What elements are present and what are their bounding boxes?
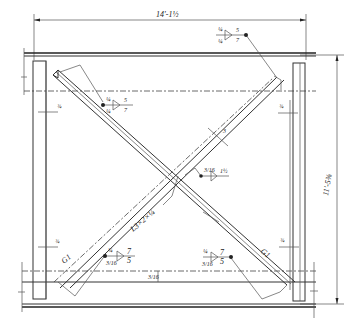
svg-text:¼: ¼: [106, 96, 111, 102]
svg-text:1½: 1½: [220, 168, 228, 174]
svg-text:¾: ¾: [55, 238, 60, 244]
arrowhead-bottom-icon: [336, 298, 339, 304]
brace-bl-tr: [54, 76, 284, 288]
svg-text:¼: ¼: [218, 26, 223, 32]
gusset-label-right: G1: [259, 247, 272, 260]
brace-tl-br: [53, 65, 295, 285]
edge-offset-upper-left: ¾: [38, 103, 62, 112]
svg-text:7: 7: [220, 248, 225, 257]
svg-text:¾: ¾: [279, 103, 284, 109]
svg-text:7: 7: [124, 107, 128, 113]
edge-offset-upper-right: ¾: [278, 103, 298, 113]
arrowhead-right-icon: [300, 19, 306, 22]
gusset-label-left: G1: [60, 252, 73, 265]
svg-text:3/16: 3/16: [147, 274, 159, 280]
right-column: [290, 63, 305, 301]
weld-callout-upper-left: ¼ ¼ 5 7: [101, 96, 133, 114]
bottom-beam: [18, 262, 318, 318]
svg-text:¼: ¼: [218, 38, 223, 44]
arrowhead-left-icon: [34, 19, 40, 22]
bracing-detail-drawing: 14'-1½ 11'-5⅜: [0, 0, 359, 326]
svg-text:3/16: 3/16: [201, 261, 213, 267]
svg-text:7: 7: [236, 37, 240, 43]
svg-text:3/16: 3/16: [203, 167, 215, 173]
arrowhead-top-icon: [336, 55, 339, 61]
width-dim-text: 14'-1½: [156, 10, 178, 19]
weld-callout-top-right: ¼ ¼ 5 7: [216, 26, 277, 78]
height-dim-text: 11'-5⅜: [321, 173, 334, 196]
weld-callout-center: 3/16 1½: [185, 167, 229, 181]
gusset-bottom-right: [231, 258, 287, 299]
gusset-top-right: [274, 76, 281, 90]
weld-callout-lower-right: ¼ 3/16 7 5: [201, 248, 233, 267]
brace-size-callout: L3×2×¼: [128, 176, 178, 234]
svg-text:¾: ¾: [280, 237, 285, 243]
beam-gap-dim: 3/16: [147, 271, 159, 282]
svg-text:¼: ¼: [108, 247, 113, 253]
brace-size-label: L3×2×¼: [128, 208, 157, 234]
svg-text:7: 7: [127, 247, 132, 256]
edge-offset-lower-left: ¾: [38, 238, 60, 247]
left-column: [33, 61, 46, 299]
svg-text:¾: ¾: [57, 103, 62, 109]
svg-text:¼: ¼: [203, 248, 208, 254]
svg-text:5: 5: [127, 256, 131, 265]
edge-offset-lower-right: ¾: [279, 237, 299, 247]
top-beam: [21, 48, 316, 95]
svg-text:¼: ¼: [106, 108, 111, 114]
tick-label-3: 3: [222, 128, 226, 134]
svg-text:5: 5: [220, 257, 224, 266]
svg-text:3/16: 3/16: [105, 260, 117, 266]
svg-text:5: 5: [236, 27, 239, 33]
gusset-top-left: [60, 65, 103, 102]
svg-text:5: 5: [124, 97, 127, 103]
height-dimension: 11'-5⅜: [300, 55, 344, 304]
weld-callout-lower-left: ¼ 3/16 7 5: [103, 247, 135, 266]
